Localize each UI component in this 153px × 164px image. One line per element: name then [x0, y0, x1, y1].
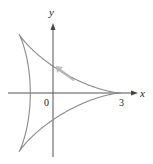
y-axis-label: y: [48, 6, 54, 18]
origin-label: 0: [44, 97, 49, 108]
x-tick-label-3: 3: [119, 97, 124, 108]
x-axis-label: x: [139, 87, 145, 99]
y-axis-arrow-icon: [51, 23, 56, 30]
x-axis-arrow-icon: [131, 91, 138, 96]
direction-arrow-icon: [56, 66, 75, 81]
deltoid-figure: y x 0 3: [0, 0, 153, 164]
